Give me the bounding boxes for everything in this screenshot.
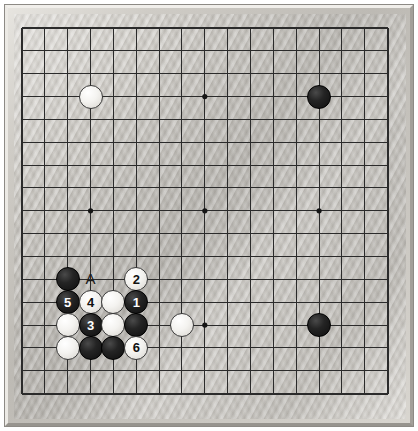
stone-white[interactable]: [56, 313, 80, 337]
stone-white[interactable]: [56, 336, 80, 360]
stone-white[interactable]: [101, 290, 125, 314]
stone-move-number: 4: [87, 296, 94, 309]
stone-black-move-5[interactable]: 5: [56, 290, 80, 314]
go-board-diagram: 254136A: [0, 0, 418, 431]
stone-black[interactable]: [56, 267, 80, 291]
stone-black-move-1[interactable]: 1: [124, 290, 148, 314]
stone-black-move-3[interactable]: 3: [79, 313, 103, 337]
stone-move-number: 3: [87, 319, 94, 332]
board-frame: 254136A: [4, 4, 414, 427]
stone-black[interactable]: [101, 336, 125, 360]
stone-white[interactable]: [79, 85, 103, 109]
stone-move-number: 6: [133, 341, 140, 354]
stones-layer: 254136A: [14, 14, 406, 419]
stone-move-number: 2: [133, 273, 140, 286]
stone-black[interactable]: [79, 336, 103, 360]
stone-black[interactable]: [124, 313, 148, 337]
board-playing-surface[interactable]: 254136A: [14, 14, 406, 419]
stone-white[interactable]: [101, 313, 125, 337]
stone-white-move-4[interactable]: 4: [79, 290, 103, 314]
stone-black[interactable]: [307, 85, 331, 109]
stone-move-number: 1: [133, 296, 140, 309]
stone-move-number: 5: [64, 296, 71, 309]
stone-black[interactable]: [307, 313, 331, 337]
stone-white-move-2[interactable]: 2: [124, 267, 148, 291]
stone-white-move-6[interactable]: 6: [124, 336, 148, 360]
stone-white[interactable]: [170, 313, 194, 337]
board-point-label-a: A: [86, 271, 96, 286]
